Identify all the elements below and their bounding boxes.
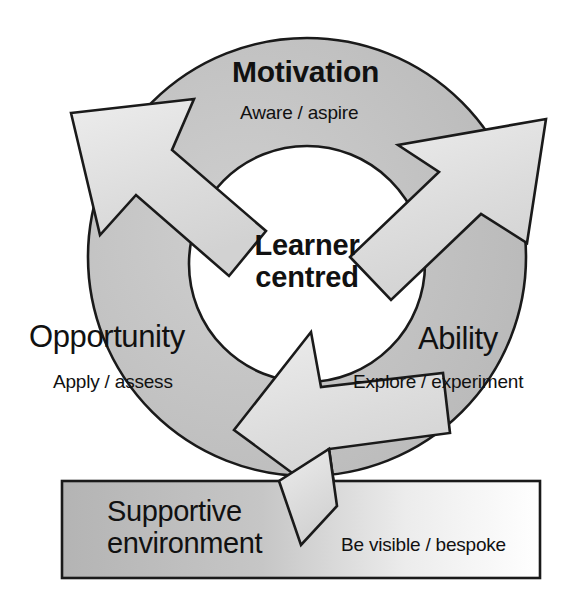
segment-label-ability: Ability [418, 322, 498, 357]
center-label-line2: centred [207, 261, 407, 293]
segment-subtitle-motivation: Aware / aspire [240, 102, 358, 123]
segment-subtitle-opportunity: Apply / assess [53, 371, 173, 392]
footer-box-title-line2: environment [107, 527, 337, 559]
footer-box-title-line1: Supportive [107, 495, 337, 527]
segment-label-opportunity: Opportunity [29, 320, 185, 355]
center-label-line1: Learner [207, 229, 407, 261]
segment-subtitle-ability: Explore / experiment [353, 371, 523, 392]
footer-box-subtitle: Be visible / bespoke [341, 534, 506, 555]
segment-label-motivation: Motivation [232, 55, 379, 89]
center-label: Learner centred [207, 229, 407, 294]
learner-centred-diagram: Motivation Aware / aspire Ability Explor… [0, 0, 582, 613]
footer-box-title: Supportive environment [107, 495, 337, 560]
